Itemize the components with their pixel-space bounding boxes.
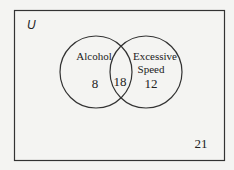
excessive-label: Excessive (133, 50, 177, 62)
speed-label: Speed (138, 63, 165, 75)
venn-diagram: U Alcohol Excessive Speed 8 18 12 21 (0, 0, 234, 170)
alcohol-only-count: 8 (92, 76, 99, 91)
intersection-count: 18 (114, 74, 127, 89)
alcohol-label: Alcohol (76, 50, 111, 62)
alcohol-circle (60, 36, 132, 108)
universe-label: U (27, 18, 36, 32)
outside-count: 21 (195, 136, 208, 151)
speed-only-count: 12 (145, 76, 158, 91)
